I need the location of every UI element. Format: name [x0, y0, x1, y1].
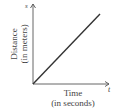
y-axis-label-line2: (in meters)	[19, 24, 29, 63]
distance-time-graph: s t Distance (in meters) Time (in second…	[0, 0, 113, 111]
x-axis-label-line2: (in seconds)	[51, 98, 95, 108]
y-axis-label-line1: Distance	[9, 28, 19, 60]
y-axis-symbol: s	[25, 2, 28, 10]
x-axis-symbol: t	[108, 85, 111, 94]
x-axis-label-line1: Time	[64, 88, 83, 98]
distance-line	[33, 14, 100, 84]
